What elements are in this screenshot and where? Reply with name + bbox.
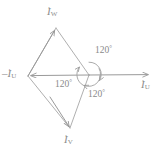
phasor-label-minus-iu: –.IU (2, 68, 16, 80)
phasor-label-iu: .IU (141, 79, 150, 91)
angle-label-left: 120° (55, 79, 72, 90)
degree-sign-bottom: ° (102, 88, 105, 96)
phasor-arrow-minus-iu (31, 75, 89, 76)
overdot-iw: . (48, 2, 50, 10)
angle-value-left: 120 (55, 79, 69, 89)
phasor-subscript-iu: U (145, 83, 150, 91)
overdot-minus-iu: . (8, 64, 10, 72)
phasor-subscript-iv: V (68, 138, 73, 146)
phasor-diagram: .IW –.IU .IU .IV 120° 120° 120° (0, 0, 160, 157)
angle-label-top: 120° (95, 45, 112, 56)
phasor-subscript-minus-iu: U (11, 72, 16, 80)
phasor-label-iw: .IW (47, 6, 57, 18)
degree-sign-top: ° (109, 44, 112, 52)
angle-label-bottom: 120° (88, 89, 105, 100)
phasor-diagram-canvas (0, 0, 160, 157)
phasor-subscript-iw: W (51, 10, 58, 18)
angle-value-top: 120 (95, 45, 109, 55)
overdot-iv: . (65, 130, 67, 138)
phasor-label-iv: .IV (64, 134, 73, 146)
angle-value-bottom: 120 (88, 89, 102, 99)
rhombus-construction-lines (28, 28, 89, 128)
degree-sign-left: ° (69, 78, 72, 86)
phasor-arrow-iw (28, 31, 55, 76)
overdot-iu: . (142, 75, 144, 83)
phasor-arrow-iv (50, 97, 69, 127)
